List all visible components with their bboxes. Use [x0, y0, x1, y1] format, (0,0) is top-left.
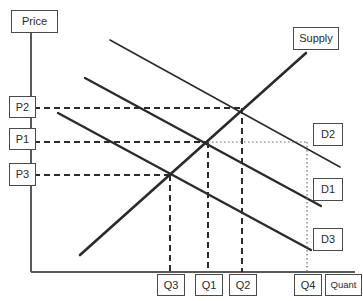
demand-curve-d3	[58, 113, 311, 250]
demand-curve-d1	[85, 78, 321, 206]
guide-lines-p3-q3	[34, 175, 170, 272]
y-axis-label-price-text: Price	[22, 16, 47, 27]
quantity-level-label-q4-text: Q4	[301, 280, 316, 291]
price-level-label-p3-text: P3	[16, 169, 29, 180]
quantity-level-label-q1: Q1	[195, 274, 223, 296]
guide-lines-p2-q2	[34, 108, 242, 272]
price-level-label-p1-text: P1	[16, 134, 29, 145]
demand-curve-label-d2: D2	[313, 123, 343, 146]
x-axis-label-quant: Quant	[325, 274, 362, 296]
supply-curve	[80, 53, 306, 255]
quantity-level-label-q3-text: Q3	[164, 280, 179, 291]
price-level-label-p2-text: P2	[16, 102, 29, 113]
demand-curve-d2	[110, 40, 340, 167]
demand-curve-label-d1-text: D1	[321, 184, 335, 195]
supply-demand-diagram: Price P2 P1 P3 Supply D2 D1 D3 Q3 Q1 Q2 …	[0, 0, 363, 301]
axis-group	[31, 32, 355, 272]
quantity-level-label-q4: Q4	[294, 274, 322, 296]
guide-lines-q4	[208, 142, 307, 272]
supply-curve-label-text: Supply	[299, 33, 333, 44]
y-axis-label-price: Price	[11, 10, 58, 33]
demand-curve-label-d2-text: D2	[321, 129, 335, 140]
quantity-level-label-q1-text: Q1	[202, 280, 217, 291]
supply-curve-label: Supply	[293, 27, 339, 50]
price-level-label-p2: P2	[9, 96, 36, 118]
x-axis-label-quant-text: Quant	[331, 280, 357, 290]
quantity-level-label-q3: Q3	[157, 274, 185, 296]
price-level-label-p3: P3	[9, 163, 36, 186]
quantity-level-label-q2-text: Q2	[236, 280, 251, 291]
guide-lines-p1-q1	[34, 142, 208, 272]
demand-curve-label-d3-text: D3	[321, 234, 335, 245]
price-level-label-p1: P1	[9, 128, 36, 150]
quantity-level-label-q2: Q2	[229, 274, 257, 296]
demand-curve-label-d1: D1	[313, 178, 343, 201]
demand-curve-label-d3: D3	[313, 228, 343, 251]
